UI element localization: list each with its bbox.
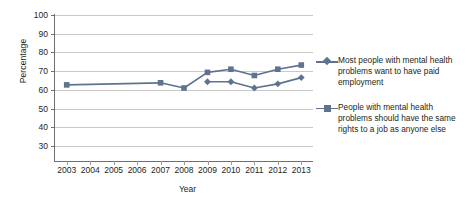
x-axis-tick-labels: 2003 2004 2005 2006 2007 2008 2009 2010 …	[55, 165, 313, 179]
data-point-marker	[274, 80, 281, 87]
x-tick-label-2007: 2007	[149, 165, 172, 179]
data-point-marker	[298, 74, 305, 81]
y-tick-label-60: 60	[22, 86, 48, 95]
diamond-marker-icon	[316, 56, 338, 67]
data-point-marker	[64, 82, 70, 88]
x-tick-label-2011: 2011	[243, 165, 266, 179]
legend-label: People with mental health problems shoul…	[338, 102, 466, 136]
data-series-layer	[55, 15, 313, 161]
x-tick-label-2006: 2006	[125, 165, 148, 179]
y-tick-label-80: 80	[22, 48, 48, 57]
y-tick-label-40: 40	[22, 123, 48, 132]
legend-entry-paid-employment[interactable]: Most people with mental health problems …	[316, 55, 466, 89]
y-axis-tick-labels: 100 90 80 70 60 50 40 30	[22, 0, 48, 203]
series-line	[67, 65, 302, 88]
y-tick-label-50: 50	[22, 105, 48, 114]
data-point-marker	[228, 66, 234, 72]
plot-area	[55, 15, 313, 161]
y-tick-label-90: 90	[22, 30, 48, 39]
data-point-marker	[275, 66, 281, 72]
data-point-marker	[252, 73, 258, 79]
data-point-marker	[181, 85, 187, 91]
data-point-marker	[205, 70, 211, 76]
x-tick-label-2010: 2010	[219, 165, 242, 179]
chart-legend: Most people with mental health problems …	[316, 55, 466, 147]
x-tick-label-2008: 2008	[172, 165, 195, 179]
square-marker-icon	[316, 103, 338, 114]
data-point-marker	[228, 78, 235, 85]
data-point-marker	[251, 85, 258, 92]
line-chart: Percentage 100 90 80 70 60 50 40 30	[0, 0, 466, 203]
x-tick-label-2013: 2013	[290, 165, 313, 179]
x-tick-label-2012: 2012	[266, 165, 289, 179]
x-tick-label-2004: 2004	[78, 165, 101, 179]
y-tick-label-30: 30	[22, 142, 48, 151]
legend-entry-same-rights[interactable]: People with mental health problems shoul…	[316, 102, 466, 136]
x-tick-label-2009: 2009	[196, 165, 219, 179]
y-tick-label-70: 70	[22, 67, 48, 76]
x-tick-label-2005: 2005	[102, 165, 125, 179]
data-point-marker	[204, 78, 211, 85]
x-tick-label-2003: 2003	[55, 165, 78, 179]
legend-label: Most people with mental health problems …	[338, 55, 466, 89]
data-point-marker	[298, 62, 304, 68]
y-tick-label-100: 100	[22, 11, 48, 20]
x-axis-title: Year	[60, 184, 315, 194]
data-point-marker	[158, 80, 164, 86]
